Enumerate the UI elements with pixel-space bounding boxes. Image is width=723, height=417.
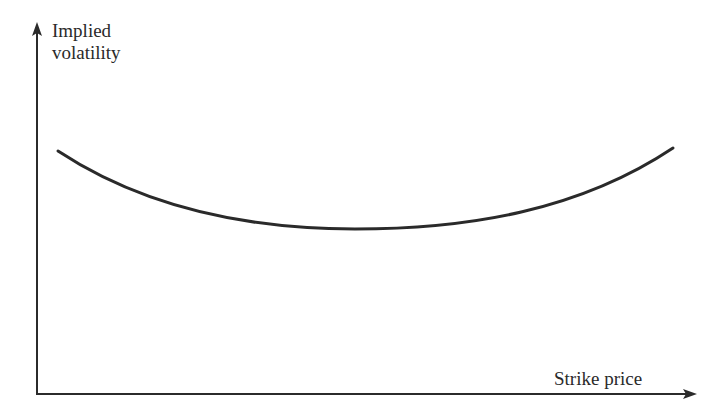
- y-axis-label-line2: volatility: [52, 42, 121, 64]
- y-axis-label-line1: Implied: [52, 20, 111, 42]
- x-axis-label: Strike price: [554, 368, 642, 390]
- volatility-smile-curve: [58, 148, 673, 229]
